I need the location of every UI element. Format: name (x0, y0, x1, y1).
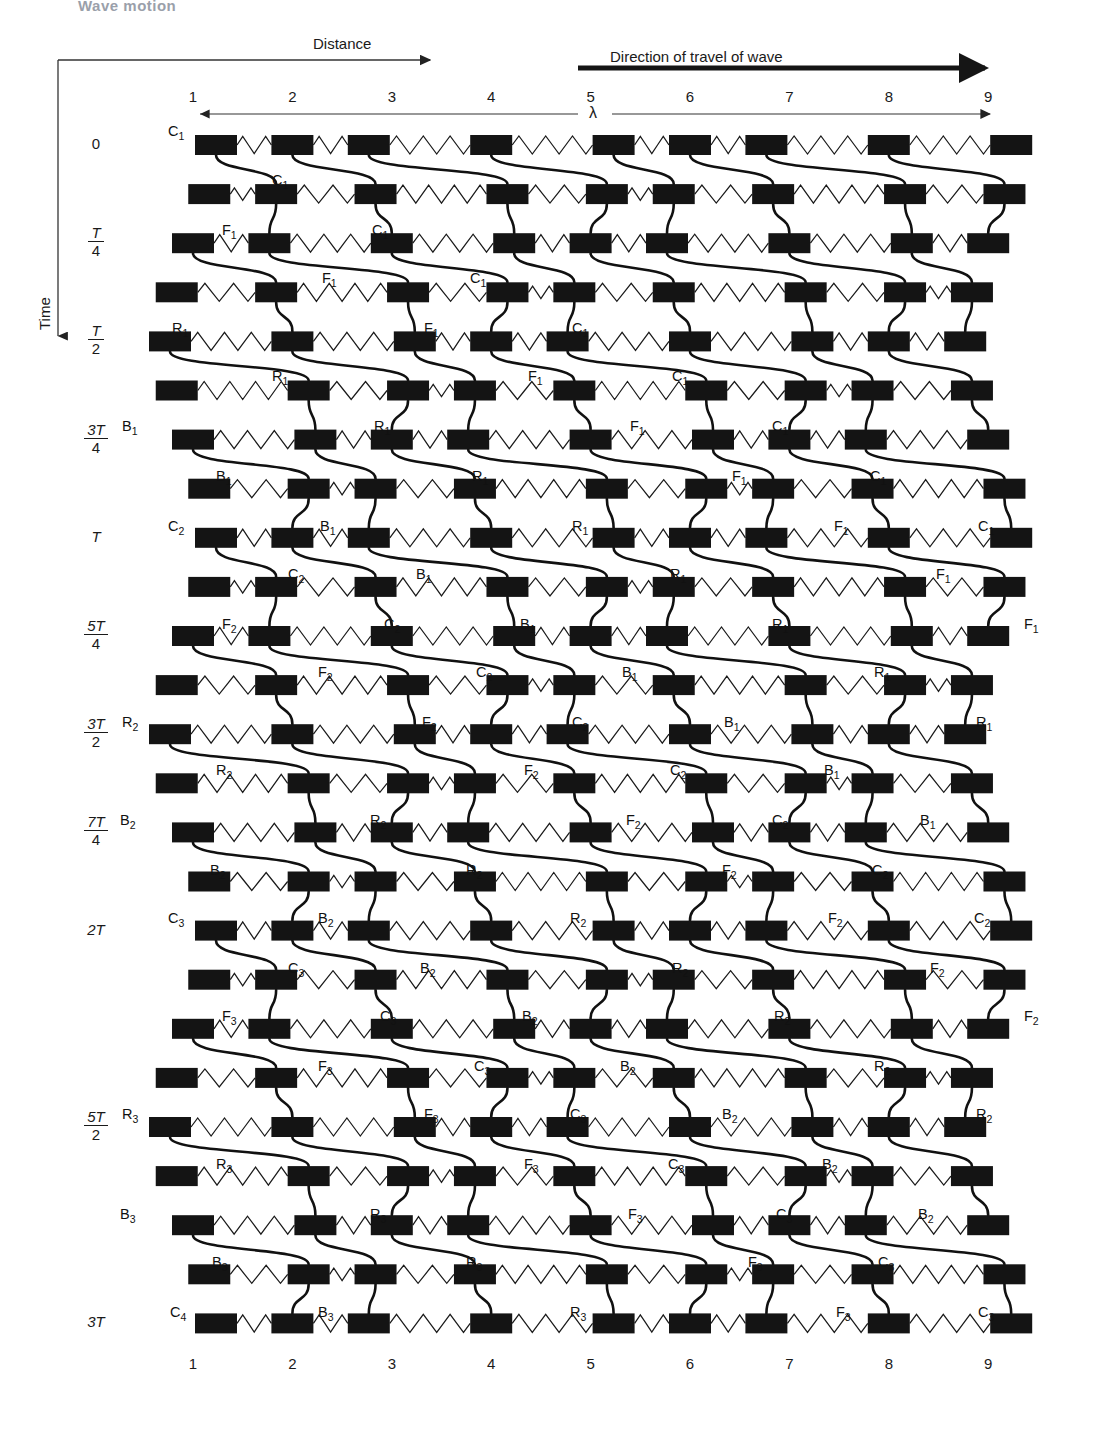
spring (589, 332, 669, 350)
spring (635, 922, 669, 939)
particle-block (951, 1166, 993, 1186)
particle-block (586, 1264, 628, 1284)
spring (894, 1265, 984, 1283)
particle-block (470, 528, 512, 548)
spring (910, 333, 944, 350)
particle-block (845, 1215, 887, 1235)
particle-block (288, 773, 330, 793)
particle-block (149, 724, 191, 744)
particle-block (692, 822, 734, 842)
spring (297, 283, 387, 301)
particle-block (348, 135, 390, 155)
particle-block (188, 184, 230, 204)
spring (429, 1170, 454, 1182)
spring (413, 1020, 493, 1038)
point-label-R2: R2 (370, 812, 386, 831)
spring (496, 382, 553, 400)
column-tick-bottom-7: 7 (774, 1356, 804, 1371)
point-label-B1: B1 (824, 762, 840, 781)
particle-block (355, 577, 397, 597)
spring (436, 333, 470, 350)
column-tick-top-7: 7 (774, 89, 804, 104)
spring (413, 1217, 447, 1234)
point-label-B1: B1 (622, 664, 638, 683)
point-label-F3: F3 (318, 1058, 333, 1077)
spring (397, 578, 487, 596)
spring (198, 676, 255, 694)
particle-block (669, 1117, 711, 1137)
particle-block (195, 1313, 237, 1333)
point-label-F3: F3 (524, 1156, 539, 1175)
particle-block (348, 1313, 390, 1333)
particle-block (454, 773, 496, 793)
spring (628, 973, 653, 985)
point-label-R1: R1 (374, 418, 390, 437)
spring (230, 480, 287, 498)
particle-block (486, 675, 528, 695)
particle-block (669, 331, 711, 351)
spring (933, 235, 967, 252)
point-label-C3: C3 (168, 910, 184, 929)
spring (330, 382, 387, 400)
point-label-R3: R3 (370, 1206, 386, 1225)
point-label-R2: R2 (570, 910, 586, 929)
particle-block (884, 184, 926, 204)
particle-block (983, 184, 1025, 204)
particle-block (967, 1215, 1009, 1235)
particle-block (685, 773, 727, 793)
particle-block (271, 528, 313, 548)
spring (397, 185, 487, 203)
spring (413, 234, 493, 252)
spring (787, 136, 867, 154)
point-label-R1: R1 (976, 714, 992, 733)
point-label-R2: R2 (216, 762, 232, 781)
particle-block (868, 921, 910, 941)
time-tick-9: 5T2 (72, 1109, 120, 1142)
particle-block (387, 282, 429, 302)
particle-block (785, 773, 827, 793)
particle-block (791, 1117, 833, 1137)
particle-block (669, 1313, 711, 1333)
point-label-R1: R1 (874, 664, 890, 683)
particle-block (983, 872, 1025, 892)
spring (894, 382, 951, 400)
particle-block (470, 135, 512, 155)
spring (910, 136, 990, 154)
spring (290, 1020, 370, 1038)
spring (313, 1118, 393, 1136)
column-tick-bottom-5: 5 (576, 1356, 606, 1371)
particle-block (188, 970, 230, 990)
point-label-B2: B2 (722, 1106, 738, 1125)
point-label-F2: F2 (828, 910, 843, 929)
particle-block (486, 577, 528, 597)
particle-block (470, 1313, 512, 1333)
spring (612, 1020, 646, 1037)
particle-block (646, 626, 688, 646)
column-tick-top-8: 8 (874, 89, 904, 104)
particle-block (884, 675, 926, 695)
particle-block (570, 430, 612, 450)
spring (910, 1118, 944, 1135)
spring (237, 922, 271, 939)
spring (833, 726, 867, 743)
spring (734, 431, 768, 448)
particle-block (470, 724, 512, 744)
spring (695, 676, 785, 694)
particle-block (791, 331, 833, 351)
spring (535, 1020, 569, 1037)
point-label-F1: F1 (222, 222, 237, 241)
point-label-C2: C2 (772, 812, 788, 831)
spring (695, 1069, 785, 1087)
spring (711, 529, 745, 546)
spring (727, 774, 784, 792)
particle-block (745, 1313, 787, 1333)
spring (794, 480, 851, 498)
particle-block (884, 1068, 926, 1088)
point-label-C1: C1 (978, 518, 994, 537)
spring (413, 824, 447, 841)
spring (910, 726, 944, 743)
particle-block (593, 1313, 635, 1333)
particle-block (348, 921, 390, 941)
spring (787, 529, 867, 547)
particle-block (983, 970, 1025, 990)
